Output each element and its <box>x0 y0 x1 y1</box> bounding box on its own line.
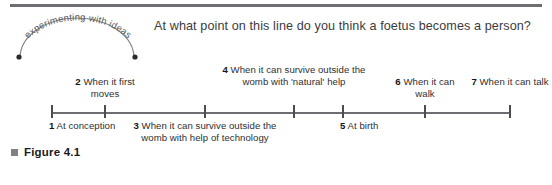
timeline-point-text-2: When it first moves <box>81 76 135 99</box>
timeline-tick-4 <box>293 105 295 118</box>
timeline-point-text-3: When it can survive outside the womb wit… <box>139 120 277 143</box>
top-divider <box>10 4 542 7</box>
timeline-point-3: 3 When it can survive outside the womb w… <box>125 120 285 143</box>
arc-right-dot-icon <box>132 54 137 59</box>
timeline-tick-7 <box>509 105 511 118</box>
timeline-point-6: 6 When it can walk <box>385 76 465 99</box>
timeline-point-5: 5 At birth <box>340 120 430 132</box>
timeline-axis <box>52 112 510 114</box>
timeline-point-2: 2 When it first moves <box>60 76 150 99</box>
timeline-point-text-7: When it can talk <box>477 76 549 87</box>
figure-panel: experimenting with ideas At what point o… <box>0 0 552 185</box>
timeline-tick-6 <box>424 105 426 118</box>
timeline-point-text-6: When it can walk <box>401 76 455 99</box>
question-text: At what point on this line do you think … <box>154 18 531 34</box>
timeline-tick-5 <box>342 105 344 118</box>
figure-caption: Figure 4.1 <box>11 146 80 158</box>
timeline-point-text-1: At conception <box>54 120 115 131</box>
timeline-tick-2 <box>104 105 106 118</box>
square-bullet-icon <box>11 149 18 156</box>
timeline-point-text-4: When it can survive outside the womb wit… <box>228 64 366 87</box>
timeline-tick-3 <box>204 105 206 118</box>
arc-left-dot-icon <box>16 54 21 59</box>
timeline-point-7: 7 When it can talk <box>470 76 550 88</box>
figure-caption-text: Figure 4.1 <box>24 146 80 158</box>
experimenting-with-ideas-badge: experimenting with ideas <box>6 12 151 64</box>
timeline-point-text-5: At birth <box>345 120 378 131</box>
timeline-point-4: 4 When it can survive outside the womb w… <box>214 64 374 87</box>
timeline-tick-1 <box>51 105 53 118</box>
badge-label: experimenting with ideas <box>22 12 135 40</box>
